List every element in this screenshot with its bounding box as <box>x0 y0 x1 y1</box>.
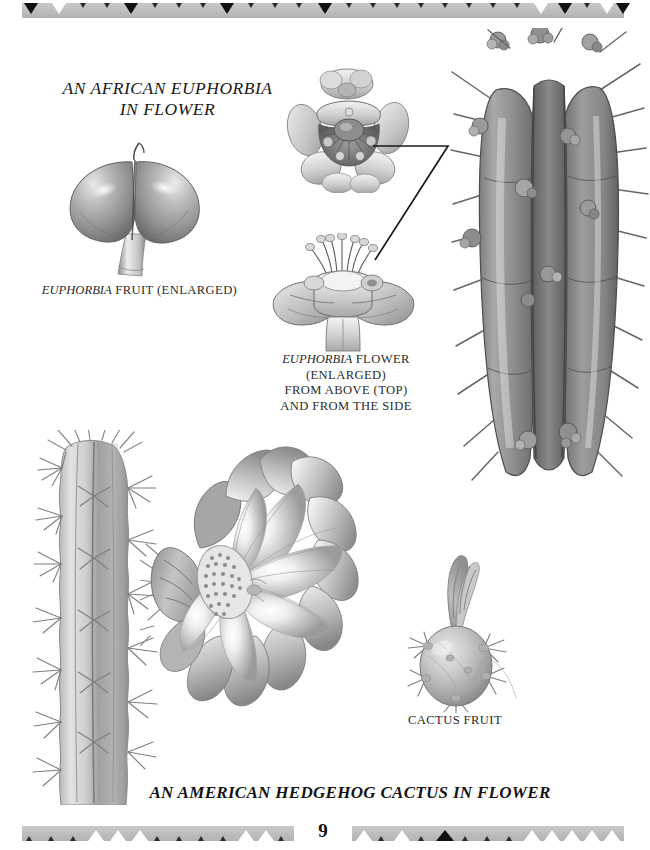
decorative-border-top <box>0 3 646 18</box>
page-title-top-line2: IN FLOWER <box>30 99 305 120</box>
euphorbia-flower-top-illustration <box>283 68 413 193</box>
border-triangle-small <box>346 3 352 8</box>
page-title-top: AN AFRICAN EUPHORBIA IN FLOWER <box>30 78 305 120</box>
border-triangle-black <box>558 3 572 14</box>
border-triangle-small <box>248 3 254 8</box>
cactus-fruit-illustration <box>398 548 518 713</box>
border-triangle-white <box>600 3 614 14</box>
border-triangle-small <box>80 3 86 8</box>
euphorbia-stem-illustration <box>450 28 650 498</box>
border-triangle-small <box>442 3 448 8</box>
border-triangle-small <box>296 3 302 8</box>
caption-euphorbia-flower-line4: AND FROM THE SIDE <box>248 399 444 415</box>
cactus-flower-illustration <box>140 440 370 730</box>
caption-euphorbia-fruit-genus: EUPHORBIA <box>42 283 112 297</box>
page-title-bottom: AN AMERICAN HEDGEHOG CACTUS IN FLOWER <box>120 783 580 803</box>
border-triangle-small <box>200 3 206 8</box>
page-title-top-line1: AN AFRICAN EUPHORBIA <box>30 78 305 99</box>
border-triangle-small <box>584 3 590 8</box>
border-triangle-small <box>176 3 182 8</box>
border-triangle-black <box>318 3 332 14</box>
border-triangle-white <box>534 3 548 14</box>
caption-euphorbia-fruit: EUPHORBIA FRUIT (ENLARGED) <box>12 283 267 298</box>
border-triangle-small <box>418 3 424 8</box>
border-triangle-small <box>152 3 158 8</box>
border-triangle-small <box>104 3 110 8</box>
euphorbia-fruit-illustration <box>60 138 210 278</box>
border-triangle-small <box>394 3 400 8</box>
border-triangle-small <box>272 3 278 8</box>
caption-euphorbia-fruit-text: FRUIT (ENLARGED) <box>112 283 238 297</box>
page-number: 9 <box>0 820 646 842</box>
euphorbia-flower-side-illustration <box>268 233 423 353</box>
caption-euphorbia-flower-line3: FROM ABOVE (TOP) <box>248 383 444 399</box>
border-triangle-black <box>124 3 138 14</box>
caption-euphorbia-flower-line1: EUPHORBIA FLOWER <box>248 352 444 368</box>
border-triangle-small <box>490 3 496 8</box>
border-triangle-small <box>514 3 520 8</box>
border-triangle-white <box>52 3 66 14</box>
caption-euphorbia-flower-line1-rest: FLOWER <box>352 352 410 366</box>
border-triangle-small <box>370 3 376 8</box>
caption-euphorbia-flower-line2: (ENLARGED) <box>248 368 444 384</box>
caption-euphorbia-flower: EUPHORBIA FLOWER (ENLARGED) FROM ABOVE (… <box>248 352 444 414</box>
border-triangle-black <box>616 3 630 14</box>
caption-cactus-fruit: CACTUS FRUIT <box>385 713 525 728</box>
border-triangle-black <box>220 3 234 14</box>
border-triangle-small <box>466 3 472 8</box>
caption-euphorbia-flower-genus: EUPHORBIA <box>282 352 352 366</box>
border-triangle-black <box>24 3 38 14</box>
